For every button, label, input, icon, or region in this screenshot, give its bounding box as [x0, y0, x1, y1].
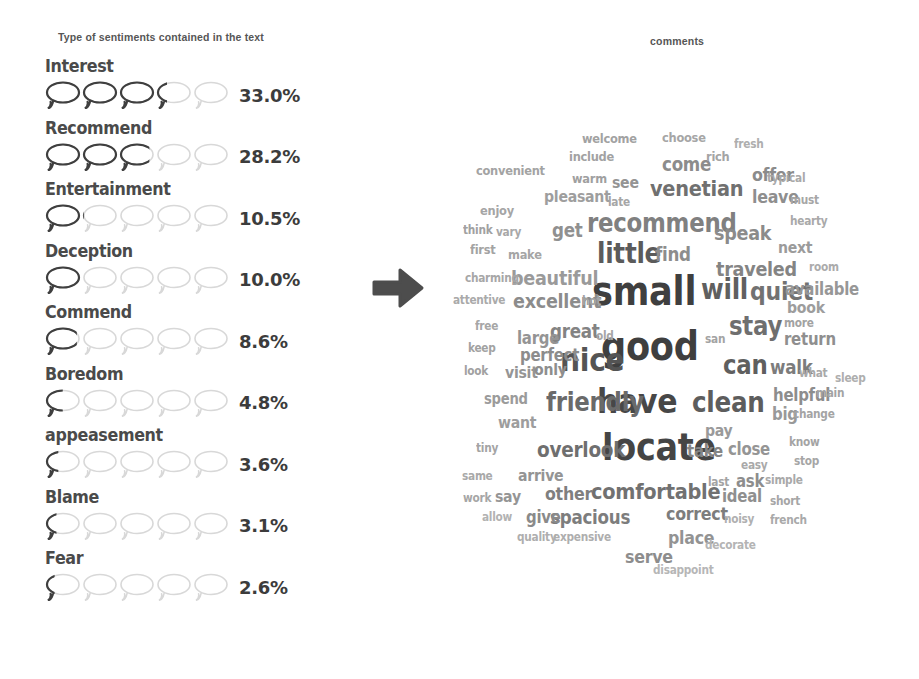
wordcloud-word: simple — [765, 474, 803, 486]
bubble-rating-track — [45, 389, 231, 417]
wordcloud-word: easy — [741, 459, 767, 471]
bubble-rating-track — [45, 266, 231, 294]
wordcloud-word: old — [596, 330, 614, 342]
wordcloud-word: convenient — [476, 164, 545, 177]
wordcloud-word: pleasant — [544, 189, 610, 205]
wordcloud-word: visit — [505, 365, 538, 381]
wordcloud-word: late — [608, 196, 630, 208]
wordcloud-word: allow — [482, 511, 512, 523]
wordcloud-word: change — [793, 408, 835, 420]
bubble-rating-track — [45, 512, 231, 540]
wordcloud-word: speak — [714, 223, 771, 243]
sentiment-label: Fear — [45, 547, 303, 569]
wordcloud-word: spend — [484, 392, 528, 407]
sentiment-row: Commend8.6% — [45, 301, 345, 363]
wordcloud-word: main — [816, 387, 844, 399]
wordcloud-word: overlook — [537, 440, 625, 461]
sentiment-value: 8.6% — [239, 331, 288, 352]
sentiment-value: 28.2% — [239, 146, 300, 167]
wordcloud-word: comfortable — [591, 481, 720, 503]
wordcloud-word: take — [687, 443, 723, 460]
sentiment-meter: 3.6% — [45, 449, 345, 479]
wordcloud-word: warm — [572, 172, 607, 185]
wordcloud-word: spacious — [550, 508, 630, 527]
wordcloud-word: venetian — [650, 178, 743, 200]
wordcloud-word: give — [526, 509, 561, 526]
wordcloud-word: think — [463, 224, 492, 236]
wordcloud-word: little — [597, 240, 661, 268]
bubble-rating-track — [45, 204, 231, 232]
sentiment-value: 3.1% — [239, 515, 288, 536]
wordcloud-word: come — [662, 155, 711, 174]
wordcloud-word: keep — [468, 342, 496, 354]
wordcloud-word: choose — [662, 131, 706, 144]
sentiment-value: 3.6% — [239, 454, 288, 475]
sentiment-row-list: Interest33.0%Recommend28.2%Entertainment… — [45, 55, 345, 609]
sentiment-label: Blame — [45, 486, 303, 508]
wordcloud-word: can — [723, 352, 768, 378]
wordcloud-word: hearty — [790, 215, 827, 227]
wordcloud-word: return — [784, 331, 836, 348]
wordcloud-canvas: smallgoodlocatehaverecommendnicelittlewi… — [440, 0, 919, 679]
wordcloud-word: sleep — [835, 372, 865, 384]
wordcloud-word: close — [728, 441, 770, 458]
wordcloud-word: what — [799, 367, 827, 379]
sentiment-meter: 10.0% — [45, 265, 345, 295]
bubble-rating-track — [45, 143, 231, 171]
sentiment-meter: 2.6% — [45, 572, 345, 602]
sentiment-row: Boredom4.8% — [45, 363, 345, 425]
wordcloud-word: stop — [794, 455, 819, 467]
wordcloud-word: typical — [767, 172, 805, 184]
sentiment-label: Deception — [45, 240, 303, 262]
wordcloud-word: traveled — [716, 259, 797, 279]
wordcloud-word: attentive — [453, 294, 505, 306]
wordcloud-word: see — [612, 175, 639, 191]
wordcloud-word: book — [787, 300, 825, 316]
wordcloud-word: disappoint — [653, 564, 714, 576]
sentiment-meter: 28.2% — [45, 142, 345, 172]
wordcloud-word: beautiful — [511, 268, 598, 288]
wordcloud-word: quality — [517, 531, 557, 543]
sentiment-label: appeasement — [45, 424, 303, 446]
sentiment-label: Boredom — [45, 363, 303, 385]
bubble-rating-track — [45, 327, 231, 355]
sentiment-value: 10.0% — [239, 269, 300, 290]
sentiment-panel-title: Type of sentiments contained in the text — [58, 31, 264, 43]
sentiment-row: appeasement3.6% — [45, 424, 345, 486]
sentiment-row: Entertainment10.5% — [45, 178, 345, 240]
wordcloud-word: only — [534, 362, 567, 378]
wordcloud-word: free — [475, 320, 498, 332]
wordcloud-word: include — [569, 150, 614, 163]
wordcloud-word: know — [789, 436, 819, 448]
wordcloud-word: find — [655, 245, 691, 264]
sentiment-row: Interest33.0% — [45, 55, 345, 117]
bubble-rating-track — [45, 573, 231, 601]
wordcloud-word: next — [778, 240, 812, 256]
wordcloud-word: same — [462, 470, 493, 482]
wordcloud-word: welcome — [582, 132, 637, 145]
wordcloud-word: want — [498, 415, 536, 431]
wordcloud-word: ask — [736, 473, 764, 490]
sentiment-meter: 4.8% — [45, 388, 345, 418]
wordcloud-word: french — [770, 514, 807, 526]
wordcloud-word: clean — [692, 389, 765, 417]
wordcloud-word: correct — [666, 505, 728, 523]
wordcloud-word: must — [790, 194, 819, 206]
wordcloud-word: expensive — [553, 531, 611, 543]
wordcloud-panel: comments smallgoodlocatehaverecommendnic… — [440, 0, 919, 679]
wordcloud-word: vary — [496, 226, 521, 238]
wordcloud-word: make — [508, 248, 542, 261]
wordcloud-word: enjoy — [480, 204, 514, 217]
bubble-rating-track — [45, 450, 231, 478]
sentiment-panel: Type of sentiments contained in the text… — [0, 0, 345, 679]
sentiment-row: Blame3.1% — [45, 486, 345, 548]
wordcloud-word: charming — [465, 272, 519, 284]
sentiment-label: Commend — [45, 301, 303, 323]
wordcloud-word: short — [770, 495, 800, 507]
wordcloud-word: large — [517, 330, 559, 347]
sentiment-meter: 3.1% — [45, 511, 345, 541]
wordcloud-word: pay — [705, 423, 733, 439]
wordcloud-word: hot — [582, 295, 601, 307]
wordcloud-word: last — [708, 476, 729, 488]
wordcloud-word: fresh — [734, 138, 763, 150]
